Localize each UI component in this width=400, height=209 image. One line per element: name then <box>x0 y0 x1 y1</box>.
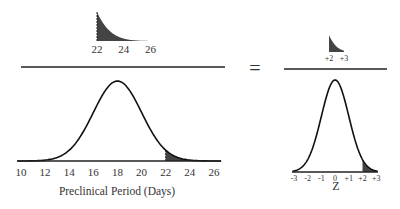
main-tick-label: 20 <box>136 166 148 178</box>
main-tick-labels: 101214161820222426 <box>16 166 220 178</box>
main-tick-label: 16 <box>88 166 100 178</box>
z-tail-tick-labels: +2+3 <box>325 54 349 63</box>
main-tick-label: 10 <box>16 166 28 178</box>
main-tick-label: 14 <box>64 166 76 178</box>
x-axis-title: Preclinical Period (Days) <box>59 185 175 198</box>
z-tick-label: -3 <box>291 174 298 183</box>
equals-sign: = <box>249 57 260 79</box>
preclinical-normal-curve <box>17 81 221 161</box>
z-tail-shaded-area <box>329 35 344 52</box>
z-axis-title: Z <box>332 179 339 193</box>
top-tick-label: 24 <box>118 43 130 55</box>
top-tick-label: 22 <box>92 43 103 55</box>
main-tick-label: 18 <box>112 166 124 178</box>
main-tick-label: 12 <box>40 166 51 178</box>
main-tick-label: 26 <box>208 166 220 178</box>
diagram-canvas: 222426 101214161820222426 Preclinical Pe… <box>0 0 400 209</box>
top-tail-shaded-area <box>97 12 151 41</box>
z-tick-label: +2 <box>358 174 367 183</box>
main-tick-label: 24 <box>184 166 196 178</box>
z-tick-label: +1 <box>345 174 354 183</box>
z-tick-label: -1 <box>318 174 325 183</box>
main-tick-label: 22 <box>160 166 171 178</box>
z-tick-label: -2 <box>304 174 311 183</box>
top-tail-tick-labels: 222426 <box>92 43 157 55</box>
top-tick-label: 26 <box>145 43 157 55</box>
z-tick-label: +3 <box>372 174 381 183</box>
z-tail-tick-label: +3 <box>340 54 349 63</box>
z-tail-tick-label: +2 <box>325 54 334 63</box>
standard-normal-curve <box>293 80 378 171</box>
